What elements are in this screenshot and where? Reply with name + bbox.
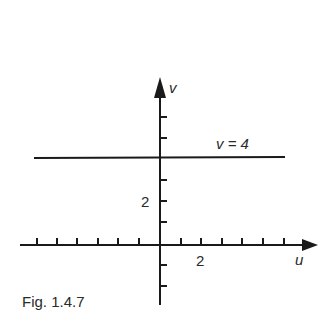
u-axis-arrowhead — [302, 239, 318, 251]
u-tick-label-2: 2 — [196, 252, 204, 269]
v-axis-ticks — [160, 117, 167, 286]
line-v-equals-4 — [34, 157, 285, 158]
u-axis-label: u — [295, 251, 304, 268]
v-tick-label-2: 2 — [141, 193, 149, 210]
line-label: v = 4 — [216, 135, 249, 152]
v-axis-arrowhead — [154, 77, 166, 98]
figure-caption: Fig. 1.4.7 — [22, 293, 85, 310]
figure-canvas: v = 4 v u 2 2 Fig. 1.4.7 — [0, 0, 327, 328]
v-axis-label: v — [169, 79, 178, 96]
